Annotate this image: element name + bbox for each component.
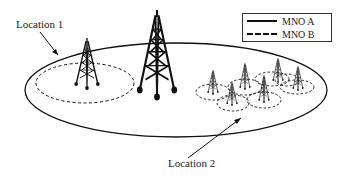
legend: MNO A MNO B: [242, 13, 332, 42]
dashed-line-icon: [247, 33, 277, 35]
small-cell-tower-icon: [272, 58, 283, 83]
small-cell-tower-icon: [207, 70, 218, 95]
macro-tower-icon: [137, 10, 177, 100]
solid-line-icon: [247, 20, 277, 22]
legend-item-mno-b: MNO B: [247, 28, 315, 40]
small-cell-tower-icon: [239, 63, 250, 90]
location2-label: Location 2: [168, 157, 215, 169]
legend-label: MNO A: [282, 16, 315, 27]
small-cell-tower-icon: [292, 66, 303, 91]
legend-item-mno-a: MNO A: [247, 15, 315, 27]
small-cell-tower-icon: [258, 75, 269, 103]
tower-mno-b-icon: [74, 38, 99, 90]
location1-label: Location 1: [16, 18, 63, 30]
mno-b-coverage-ellipse-left: [36, 63, 134, 103]
legend-label: MNO B: [282, 29, 315, 40]
location2-arrow: [188, 118, 241, 158]
